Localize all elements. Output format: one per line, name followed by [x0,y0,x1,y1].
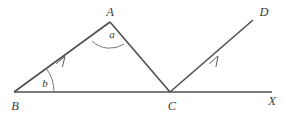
label-vertex-A: A [105,5,114,19]
segment-BA [14,22,110,92]
label-vertex-C: C [168,99,177,113]
label-angle-b: b [42,77,48,89]
ray-CD [170,20,253,92]
label-vertex-B: B [11,99,19,113]
geometry-canvas: A B C D X a b [0,0,285,116]
label-angle-a: a [109,28,115,40]
angle-arc-a [92,41,124,48]
label-vertex-D: D [258,5,268,19]
segment-AC [110,22,170,92]
label-vertex-X: X [267,94,277,108]
geometry-figure: A B C D X a b [0,0,285,116]
